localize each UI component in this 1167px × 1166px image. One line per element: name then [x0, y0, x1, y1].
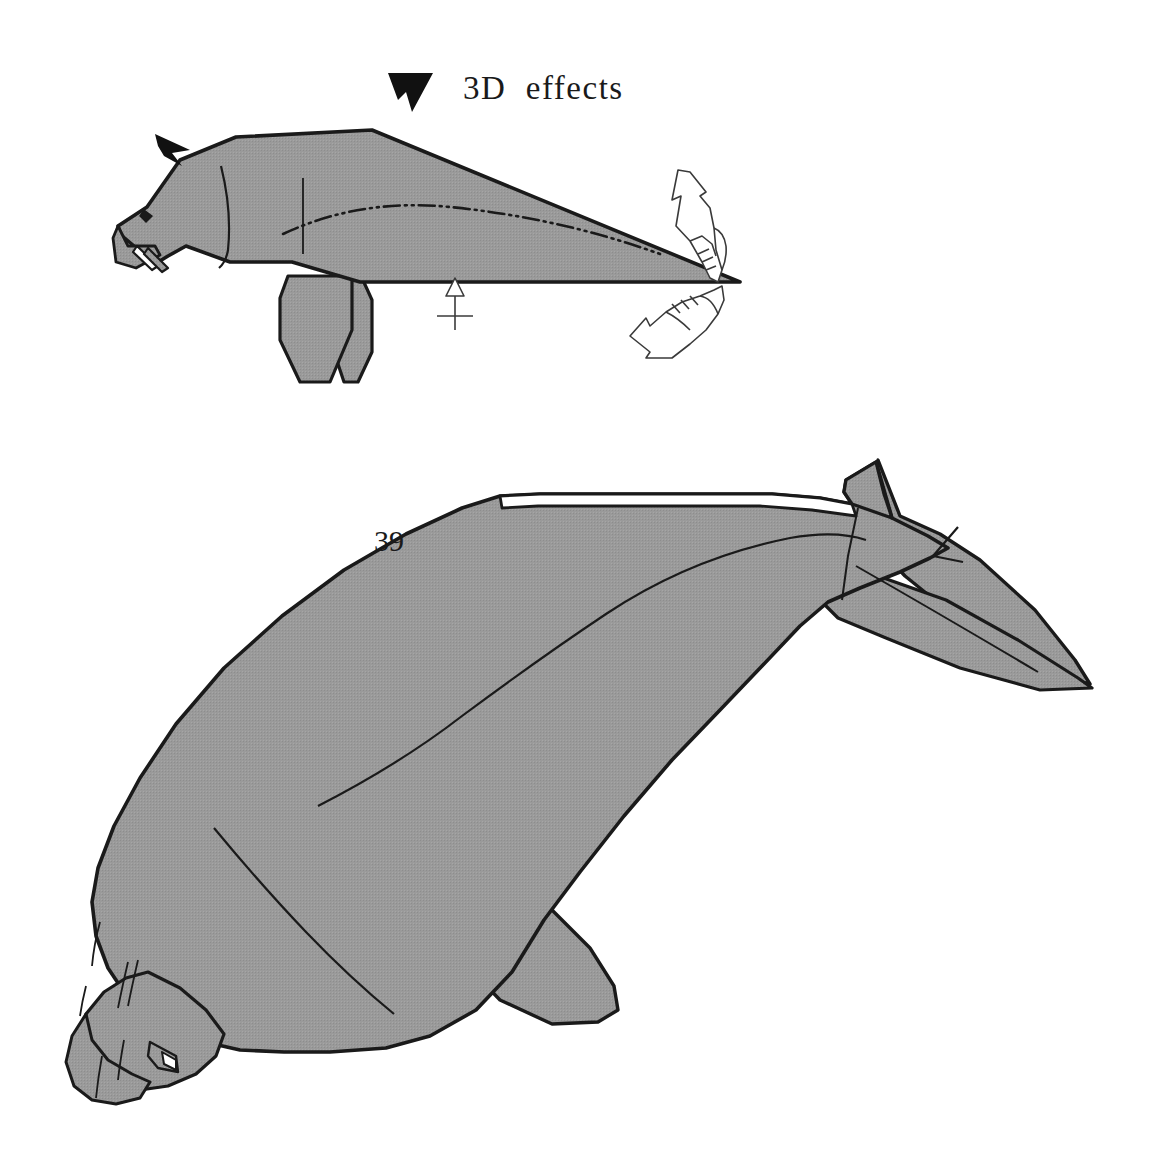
- push-here-arrow-icon: [437, 278, 473, 330]
- origami-diagram-canvas: [0, 0, 1167, 1166]
- pull-hand-arrow-down-icon: [630, 286, 724, 358]
- brow-crease: [80, 986, 86, 1016]
- step-number-label: 39: [374, 524, 404, 558]
- figure-seal-finished-3d: [66, 460, 1092, 1104]
- figure-seal-flat-profile: [113, 73, 740, 382]
- effects-caption: 3D effects: [463, 70, 624, 107]
- diagram-page: 3D effects 39: [0, 0, 1167, 1166]
- solid-arrowhead-caption-icon: [388, 73, 433, 112]
